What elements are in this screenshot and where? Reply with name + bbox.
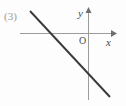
origin-label: O: [79, 36, 86, 46]
coordinate-plane-svg: [0, 0, 126, 106]
item-number-label: (3): [4, 11, 17, 22]
x-axis-label: x: [106, 37, 111, 48]
linear-graph-figure: (3) y x O: [0, 0, 126, 106]
y-axis-label: y: [78, 8, 83, 19]
linear-function-line: [30, 11, 110, 97]
x-axis-arrowhead: [111, 30, 117, 37]
y-axis-arrowhead: [86, 7, 92, 13]
